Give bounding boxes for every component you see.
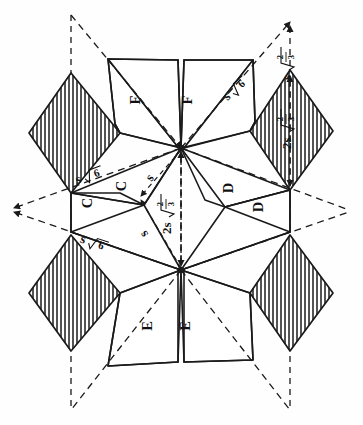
dim-numerator-center-vertical: 2 xyxy=(155,202,165,206)
vertex-lower-hub xyxy=(178,267,184,273)
face-label-f-right: F xyxy=(179,95,195,104)
dashed-diagonals-group xyxy=(14,15,349,410)
face-label-f-left: F xyxy=(127,95,143,104)
dim-coefficient-center-vertical: 2s xyxy=(159,222,174,234)
face-label-c-upper: C xyxy=(113,181,129,191)
face-label-c-lower: C xyxy=(79,198,95,208)
dim-denominator-center-vertical: 3 xyxy=(166,202,176,206)
edge-f-left-top xyxy=(108,59,178,60)
dim-coefficient-top-right-outer: s xyxy=(279,75,294,80)
face-label-d-lower: D xyxy=(250,202,266,212)
face-label-e-left: E xyxy=(139,321,155,331)
dim-coefficient-right-diamond: 2s xyxy=(279,137,294,149)
dim-numerator-right-diamond: 2 xyxy=(275,117,285,121)
vertex-upper-hub xyxy=(178,145,184,151)
hatched-rhombus-bottom-left xyxy=(29,235,120,351)
dim-label-center-vertical: 2s 2 3 xyxy=(155,194,176,234)
face-label-e-right: E xyxy=(177,321,193,331)
hatched-rhombus-bottom-right xyxy=(250,235,333,351)
face-label-d-upper: D xyxy=(220,183,236,193)
figure-root: F F C C D D E E s 2 3 2s 2 3 2s 2 3 s 6 xyxy=(0,0,363,425)
dim-label-top-right-outer: s 2 3 xyxy=(275,47,296,80)
geometric-diagram-svg: F F C C D D E E s 2 3 2s 2 3 2s 2 3 s 6 xyxy=(0,0,363,425)
dim-denominator-top-right-outer: 3 xyxy=(286,55,296,59)
dim-radicand-upper-left-diag: 6 xyxy=(92,166,102,179)
dim-denominator-right-diamond: 3 xyxy=(286,117,296,121)
dim-numerator-top-right-outer: 2 xyxy=(275,55,285,59)
